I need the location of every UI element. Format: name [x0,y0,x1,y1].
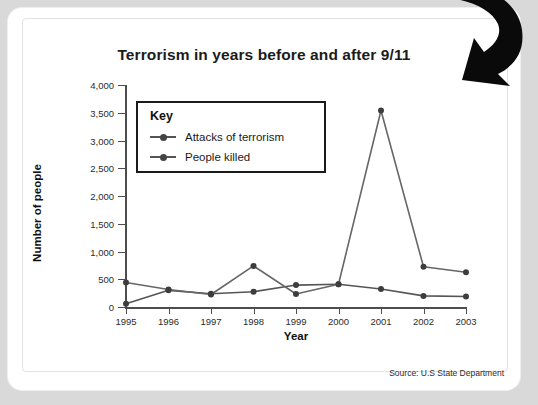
data-point [293,282,299,288]
y-axis-title: Number of people [30,118,44,308]
y-axis-tick [118,85,126,86]
x-axis-tick-label: 1996 [158,316,179,327]
x-axis-tick-label: 1997 [200,316,221,327]
y-axis-tick [118,113,126,114]
y-axis-tick [118,279,126,280]
source-note: Source: U.S State Department [8,368,504,378]
y-axis-tick-label: 1,000 [90,246,114,257]
x-axis-tick-label: 2001 [370,316,391,327]
data-point [208,292,214,298]
y-axis-tick-label: 3,500 [90,107,114,118]
x-axis-tick-label: 1995 [115,316,136,327]
x-axis-tick [339,307,340,314]
x-axis-tick-label: 2000 [328,316,349,327]
x-axis-title: Year [126,330,466,342]
data-point [463,293,469,299]
x-axis-tick [424,307,425,314]
legend-title: Key [150,109,324,123]
y-axis-tick-label: 2,500 [90,163,114,174]
slide-root: Terrorism in years before and after 9/11… [0,0,538,405]
y-axis-tick [118,168,126,169]
data-point [336,281,342,287]
legend-item-people-killed[interactable]: People killed [150,147,324,167]
data-point [166,287,172,293]
legend-label-attacks: Attacks of terrorism [185,131,284,143]
data-point [251,289,257,295]
y-axis-tick [118,307,126,308]
legend-marker-people-killed-icon [150,152,176,162]
data-point [123,301,129,307]
x-axis-tick [296,307,297,314]
y-axis-tick-label: 1,500 [90,218,114,229]
legend-label-people-killed: People killed [185,151,250,163]
y-axis-tick [118,141,126,142]
y-axis-tick-label: 0 [109,302,114,313]
data-point [123,280,129,286]
x-axis-tick [381,307,382,314]
x-axis-tick-label: 1998 [243,316,264,327]
curved-arrow-icon [418,0,538,94]
data-point [378,108,384,114]
x-axis-tick [126,307,127,314]
x-axis-tick [211,307,212,314]
x-axis-tick-label: 1999 [285,316,306,327]
y-axis-tick [118,252,126,253]
y-axis-tick-label: 4,000 [90,80,114,91]
y-axis-title-text: Number of people [31,164,43,262]
data-point [378,286,384,292]
legend-item-attacks[interactable]: Attacks of terrorism [150,127,324,147]
y-axis-tick-label: 500 [98,274,114,285]
y-axis-tick [118,196,126,197]
chart-legend: Key Attacks of terrorism People killed [136,101,326,173]
legend-marker-attacks-icon [150,132,176,142]
y-axis-tick [118,224,126,225]
x-axis-tick-label: 2003 [455,316,476,327]
y-axis-tick-label: 2,000 [90,191,114,202]
data-point [463,269,469,275]
data-point [293,291,299,297]
x-axis-tick [169,307,170,314]
data-point [421,293,427,299]
data-point [251,263,257,269]
x-axis-tick-label: 2002 [413,316,434,327]
x-axis-tick [466,307,467,314]
x-axis-tick [254,307,255,314]
data-point [421,264,427,270]
y-axis-tick-label: 3,000 [90,135,114,146]
